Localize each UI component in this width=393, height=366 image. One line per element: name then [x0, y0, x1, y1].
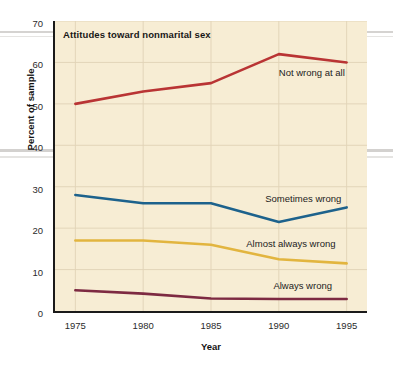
x-tick-label: 1985	[200, 320, 221, 331]
y-tick-label: 10	[32, 266, 43, 277]
plot-inner: Attitudes toward nonmarital sex Not wron…	[55, 21, 367, 311]
y-tick-label: 20	[32, 225, 43, 236]
y-tick-label: 0	[38, 308, 43, 319]
x-tick-label: 1995	[336, 320, 357, 331]
x-tick-label: 1975	[65, 320, 86, 331]
series-label: Always wrong	[273, 280, 332, 291]
x-tick-label: 1990	[268, 320, 289, 331]
series-label: Sometimes wrong	[265, 193, 341, 204]
series-line	[75, 54, 346, 104]
chart-title: Attitudes toward nonmarital sex	[63, 29, 211, 40]
x-axis: 19751980198519901995	[53, 313, 369, 337]
x-axis-title: Year	[53, 341, 369, 352]
y-axis-title: Percent of sample	[25, 58, 36, 162]
x-tick-label: 1980	[133, 320, 154, 331]
y-tick-label: 70	[32, 18, 43, 29]
chart-figure: 010203040506070 Percent of sample Attitu…	[0, 0, 393, 366]
plot-area: Attitudes toward nonmarital sex Not wron…	[53, 21, 367, 313]
series-label: Not wrong at all	[279, 67, 345, 78]
series-lines	[55, 21, 367, 311]
series-label: Almost always wrong	[246, 238, 335, 249]
y-tick-label: 30	[32, 183, 43, 194]
series-line	[75, 290, 346, 299]
